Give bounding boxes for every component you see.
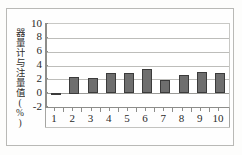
- x-tick-boundary-mark: [63, 108, 64, 112]
- x-axis-underline: [45, 127, 230, 128]
- bar: [215, 73, 225, 93]
- x-tick-mark: [145, 108, 146, 111]
- y-tick-label: 0: [22, 87, 42, 98]
- x-tick-mark: [54, 108, 55, 111]
- bar: [69, 77, 79, 94]
- x-tick-boundary-mark: [191, 108, 192, 112]
- y-tick-label: -2: [22, 101, 42, 112]
- x-tick-boundary-mark: [81, 108, 82, 112]
- y-tick-mark: [45, 106, 48, 107]
- x-tick-mark: [72, 108, 73, 111]
- x-tick-mark: [200, 108, 201, 111]
- x-axis-ticks: 12345678910: [45, 112, 230, 128]
- bar: [179, 75, 189, 93]
- x-tick-mark: [91, 108, 92, 111]
- y-axis-ticks: 1086420-2: [22, 17, 42, 114]
- x-tick-boundary-mark: [136, 108, 137, 112]
- bar: [124, 73, 134, 93]
- x-tick-mark: [218, 108, 219, 111]
- y-tick-mark: [45, 65, 48, 66]
- y-tick-mark: [45, 23, 48, 24]
- x-tick-mark: [163, 108, 164, 111]
- bar: [106, 73, 116, 93]
- y-tick-label: 6: [22, 45, 42, 56]
- x-tick-label: 10: [206, 112, 230, 125]
- y-tick-label: 2: [22, 73, 42, 84]
- bar: [142, 69, 152, 93]
- y-tick-mark: [45, 51, 48, 52]
- y-tick-label: 4: [22, 59, 42, 70]
- x-tick-boundary-mark: [172, 108, 173, 112]
- x-tick-boundary-mark: [100, 108, 101, 112]
- x-tick-boundary-mark: [154, 108, 155, 112]
- x-tick-mark: [109, 108, 110, 111]
- bar-series: [47, 24, 229, 107]
- x-tick-boundary-mark: [118, 108, 119, 112]
- x-tick-boundary-mark: [209, 108, 210, 112]
- bar: [197, 72, 207, 93]
- bar: [51, 93, 61, 95]
- y-tick-label: 10: [22, 18, 42, 29]
- x-tick-mark: [127, 108, 128, 111]
- y-tick-mark: [45, 37, 48, 38]
- chart-figure: 器量计与注量值(%) 1086420-2 12345678910: [0, 0, 242, 155]
- y-tick-mark: [45, 78, 48, 79]
- y-tick-label: 8: [22, 31, 42, 42]
- bar: [88, 78, 98, 93]
- x-tick-mark: [182, 108, 183, 111]
- bar: [160, 80, 170, 93]
- y-tick-mark: [45, 92, 48, 93]
- plot-area: [45, 23, 230, 108]
